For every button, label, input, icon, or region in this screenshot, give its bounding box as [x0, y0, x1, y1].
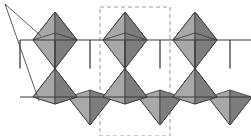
- hourglass-lower-tetrahedron: [33, 69, 77, 105]
- tetrahedral-chain-figure: [0, 0, 251, 136]
- tetra-face-left: [33, 69, 55, 105]
- leader-lines: [5, 4, 41, 101]
- hourglass-lower-tetrahedron: [103, 69, 147, 105]
- tetrahedra-group: [20, 12, 251, 125]
- hourglass-lower-tetrahedron: [173, 69, 217, 105]
- structure-drawing: [0, 0, 251, 136]
- tetra-face-right: [230, 90, 251, 125]
